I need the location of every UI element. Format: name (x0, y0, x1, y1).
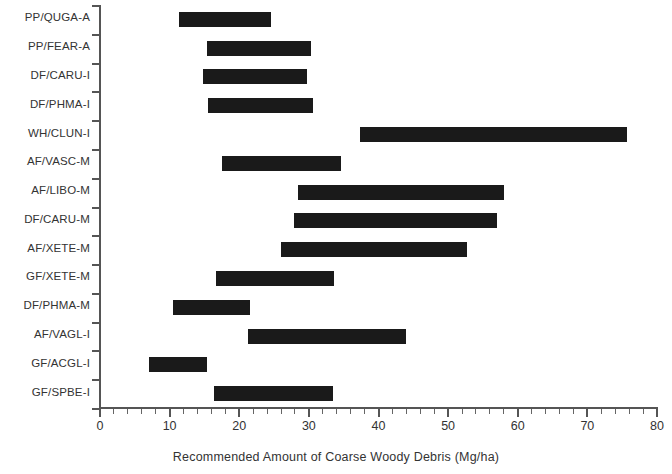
x-axis-tick-minor (462, 409, 463, 414)
x-axis-tick-minor (322, 409, 323, 414)
x-axis-tick-major (517, 409, 519, 417)
range-bar-pp-fear-a (207, 41, 311, 56)
y-axis-label-df-phma-m: DF/PHMA-M (0, 299, 90, 311)
x-axis-tick-label: 60 (498, 419, 538, 433)
x-axis-tick-major (447, 409, 449, 417)
x-axis-tick-minor (601, 409, 602, 414)
x-axis-tick-label: 80 (637, 419, 672, 433)
y-axis-label-df-phma-i: DF/PHMA-I (0, 98, 90, 110)
y-axis-label-gf-spbe-i: GF/SPBE-I (0, 386, 90, 398)
x-axis-tick-minor (141, 409, 142, 414)
x-axis-tick-minor (281, 409, 282, 414)
range-bar-af-libo-m (298, 185, 504, 200)
y-axis-labels: PP/QUGA-APP/FEAR-ADF/CARU-IDF/PHMA-IWH/C… (0, 0, 90, 474)
x-axis-tick-minor (155, 409, 156, 414)
range-bar-gf-acgl-i (149, 357, 207, 372)
x-axis-tick-minor (267, 409, 268, 414)
x-axis-tick-major (378, 409, 380, 417)
x-axis-tick-minor (294, 409, 295, 414)
coarse-woody-debris-range-chart: PP/QUGA-APP/FEAR-ADF/CARU-IDF/PHMA-IWH/C… (0, 0, 672, 474)
x-axis-tick-label: 0 (80, 419, 120, 433)
x-axis-tick-minor (364, 409, 365, 414)
y-axis-label-df-caru-i: DF/CARU-I (0, 69, 90, 81)
x-axis-tick-minor (531, 409, 532, 414)
x-axis-tick-major (308, 409, 310, 417)
x-axis-tick-major (238, 409, 240, 417)
x-axis-tick-label: 70 (567, 419, 607, 433)
y-axis-label-df-caru-m: DF/CARU-M (0, 213, 90, 225)
x-axis-tick-minor (489, 409, 490, 414)
range-bar-af-vasc-m (222, 156, 341, 171)
range-bar-af-xete-m (281, 242, 467, 257)
range-bar-df-caru-i (203, 69, 307, 84)
x-axis-tick-label: 30 (289, 419, 329, 433)
x-axis-tick-major (586, 409, 588, 417)
x-axis-tick-label: 50 (428, 419, 468, 433)
x-axis-tick-label: 20 (219, 419, 259, 433)
range-bar-df-phma-m (173, 300, 250, 315)
y-axis-label-af-xete-m: AF/XETE-M (0, 242, 90, 254)
x-axis-tick-minor (211, 409, 212, 414)
x-axis-tick-minor (643, 409, 644, 414)
y-axis-label-af-vagl-i: AF/VAGL-I (0, 328, 90, 340)
x-axis-tick-major (169, 409, 171, 417)
x-axis-tick-minor (434, 409, 435, 414)
x-axis-tick-minor (559, 409, 560, 414)
range-bar-gf-xete-m (216, 271, 334, 286)
x-axis-tick-minor (113, 409, 114, 414)
x-axis-tick-minor (392, 409, 393, 414)
x-axis-tick-minor (406, 409, 407, 414)
range-bar-pp-quga-a (179, 12, 270, 27)
x-axis-tick-minor (475, 409, 476, 414)
y-axis-spine (99, 5, 101, 409)
x-axis-tick-minor (197, 409, 198, 414)
x-axis-tick-minor (183, 409, 184, 414)
y-axis-label-gf-xete-m: GF/XETE-M (0, 270, 90, 282)
x-axis-tick-minor (127, 409, 128, 414)
range-bar-wh-clun-i (360, 127, 627, 142)
y-axis-label-af-libo-m: AF/LIBO-M (0, 184, 90, 196)
range-bar-af-vagl-i (248, 329, 405, 344)
x-axis-tick-minor (615, 409, 616, 414)
x-axis-tick-major (99, 409, 101, 417)
x-axis-tick-label: 40 (359, 419, 399, 433)
x-axis-tick-label: 10 (150, 419, 190, 433)
x-axis-tick-minor (336, 409, 337, 414)
x-axis-tick-minor (503, 409, 504, 414)
x-axis-tick-major (656, 409, 658, 417)
x-axis-tick-minor (253, 409, 254, 414)
x-axis-tick-minor (420, 409, 421, 414)
x-axis-tick-minor (545, 409, 546, 414)
range-bar-gf-spbe-i (214, 386, 332, 401)
y-axis-label-af-vasc-m: AF/VASC-M (0, 155, 90, 167)
x-axis-tick-minor (629, 409, 630, 414)
x-axis-tick-minor (573, 409, 574, 414)
y-axis-label-gf-acgl-i: GF/ACGL-I (0, 357, 90, 369)
x-axis-tick-minor (225, 409, 226, 414)
y-axis-label-pp-quga-a: PP/QUGA-A (0, 11, 90, 23)
y-axis-label-pp-fear-a: PP/FEAR-A (0, 40, 90, 52)
x-axis-title: Recommended Amount of Coarse Woody Debri… (0, 450, 672, 464)
range-bar-df-caru-m (294, 213, 497, 228)
x-axis-tick-minor (350, 409, 351, 414)
y-axis-label-wh-clun-i: WH/CLUN-I (0, 127, 90, 139)
range-bar-df-phma-i (208, 98, 313, 113)
